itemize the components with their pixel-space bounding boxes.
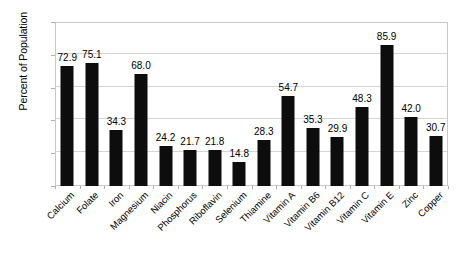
x-tick-mark: [153, 186, 154, 189]
x-tick-mark: [301, 186, 302, 189]
bar-value-label: 75.1: [82, 50, 101, 60]
bar[interactable]: [159, 146, 172, 186]
bar-slot: 72.9: [55, 22, 80, 186]
bar-slot: 24.2: [153, 22, 178, 186]
x-tick-mark: [276, 186, 277, 189]
x-axis-tick-label: Copper: [416, 190, 445, 219]
bar-value-label: 29.9: [328, 124, 347, 134]
bar-slot: 34.3: [104, 22, 129, 186]
bar-slot: 35.3: [301, 22, 326, 186]
x-axis-tick-label: Zinc: [400, 190, 419, 209]
x-tick-mark: [325, 186, 326, 189]
x-tick-mark: [104, 186, 105, 189]
x-tick-mark: [178, 186, 179, 189]
bar[interactable]: [380, 45, 393, 186]
bar-slot: 28.3: [252, 22, 277, 186]
bar[interactable]: [405, 117, 418, 186]
bar-value-label: 28.3: [254, 127, 273, 137]
bar-slot: 14.8: [227, 22, 252, 186]
x-tick-mark: [55, 186, 56, 189]
bar[interactable]: [429, 136, 442, 186]
bar-value-label: 30.7: [426, 123, 445, 133]
x-axis-tick-label: Calcium: [45, 190, 76, 221]
x-axis-labels: CalciumFolateIronMagnesiumNiacinPhosphor…: [55, 188, 448, 255]
bar[interactable]: [208, 150, 221, 186]
bar-value-label: 21.8: [205, 137, 224, 147]
bar-slot: 42.0: [399, 22, 424, 186]
bar-value-label: 35.3: [303, 115, 322, 125]
x-tick-mark: [350, 186, 351, 189]
bar[interactable]: [306, 128, 319, 186]
bar-slot: 85.9: [374, 22, 399, 186]
bar[interactable]: [257, 140, 270, 186]
bars-layer: 72.975.134.368.024.221.721.814.828.354.7…: [55, 22, 448, 186]
bar[interactable]: [110, 130, 123, 186]
bar[interactable]: [356, 107, 369, 186]
x-tick-mark: [202, 186, 203, 189]
bar-slot: 75.1: [80, 22, 105, 186]
bar-slot: 68.0: [129, 22, 154, 186]
bar-value-label: 54.7: [279, 83, 298, 93]
bar-slot: 54.7: [276, 22, 301, 186]
x-axis-tick-label: Iron: [107, 190, 125, 208]
bar-slot: 48.3: [350, 22, 375, 186]
bar[interactable]: [61, 66, 74, 186]
bar-value-label: 85.9: [377, 32, 396, 42]
bar-value-label: 14.8: [229, 149, 248, 159]
bar[interactable]: [282, 96, 295, 186]
bar-slot: 21.8: [202, 22, 227, 186]
bar-slot: 29.9: [325, 22, 350, 186]
bar-value-label: 24.2: [156, 133, 175, 143]
bar-value-label: 68.0: [131, 61, 150, 71]
bar[interactable]: [184, 150, 197, 186]
x-tick-mark: [80, 186, 81, 189]
x-tick-mark: [129, 186, 130, 189]
bar-chart: Percent of Population 020406080100 72.97…: [0, 0, 457, 255]
bar-value-label: 42.0: [401, 104, 420, 114]
bar[interactable]: [134, 74, 147, 186]
x-axis-tick-label: Folate: [75, 190, 100, 215]
x-tick-mark: [227, 186, 228, 189]
x-tick-mark: [374, 186, 375, 189]
bar-value-label: 72.9: [58, 53, 77, 63]
x-tick-mark: [252, 186, 253, 189]
bar[interactable]: [233, 162, 246, 186]
bar-value-label: 34.3: [107, 117, 126, 127]
bar[interactable]: [331, 137, 344, 186]
bar[interactable]: [85, 63, 98, 186]
x-tick-mark: [423, 186, 424, 189]
x-tick-mark: [399, 186, 400, 189]
bar-slot: 30.7: [423, 22, 448, 186]
x-tick-mark: [448, 186, 449, 189]
bar-slot: 21.7: [178, 22, 203, 186]
bar-value-label: 21.7: [180, 137, 199, 147]
bar-value-label: 48.3: [352, 94, 371, 104]
y-axis-title: Percent of Population: [18, 0, 29, 136]
